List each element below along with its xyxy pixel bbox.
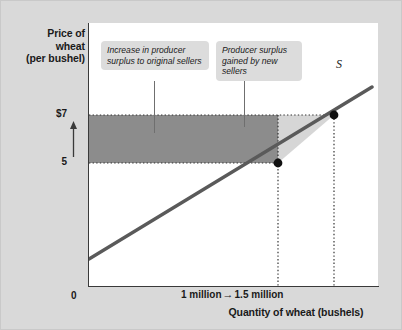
y-tick-label-7: $7 [56,108,67,119]
callout-leader-line-new-sellers [244,81,245,127]
supply-curve-label: S [336,57,342,72]
x-axis-title: Quantity of wheat (bushels) [196,306,396,318]
marker-original-equilibrium [274,159,283,168]
callout-leader-line-original-sellers [154,81,155,133]
y-axis-title-line-1: Price of [7,27,85,40]
origin-label: 0 [71,290,77,301]
y-axis-title: Price of wheat (per bushel) [7,27,85,65]
x-tick-label-1-million: 1 million [181,289,222,300]
x-tick-label-1-5-million: 1.5 million [235,289,284,300]
y-axis-title-line-2: wheat [7,40,85,53]
producer-surplus-figure: Price of wheat (per bushel) $7 5 0 [0,0,402,330]
marker-new-equilibrium [330,111,339,120]
y-tick-label-5: 5 [61,156,67,167]
supply-curve [89,87,372,259]
region-original-sellers-surplus [89,115,278,163]
callout-original-sellers-surplus: Increase in producer surplus to original… [101,41,209,70]
callout-new-sellers-surplus: Producer surplus gained by new sellers [216,41,302,81]
price-increase-arrow-icon [69,121,78,157]
quantity-increase-arrow-icon: → [222,289,235,299]
y-axis-title-line-3: (per bushel) [7,52,85,65]
x-tick-labels: 1 million→1.5 million [181,288,391,300]
